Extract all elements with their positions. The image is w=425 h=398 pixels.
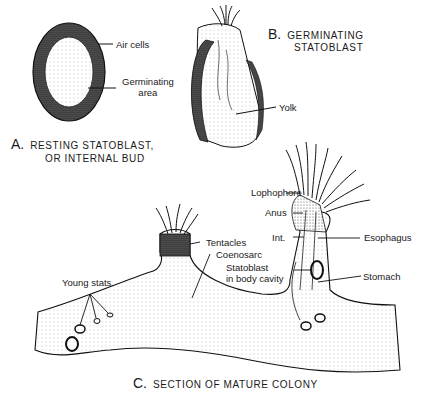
label-air-cells: Air cells [116,39,149,50]
label-yolk: Yolk [279,102,297,113]
germinating-statoblast [191,5,276,147]
panel-c-letter: C. [133,375,147,391]
label-young-stats: Young stats. [62,277,114,288]
label-esophagus: Esophagus [364,232,412,243]
diagram-drawing [0,0,425,398]
panel-a-caption-line1: RESTING STATOBLAST, [30,140,154,151]
label-stomach: Stomach [363,271,401,282]
label-germinating-line1: Germinating [122,76,174,87]
label-statoblast-line1: Statoblast [226,262,284,273]
label-germinating-area: Germinating area [122,76,174,98]
panel-c-caption: SECTION OF MATURE COLONY [153,379,318,390]
label-tentacles: Tentacles [206,237,246,248]
label-coenosarc: Coenosarc [216,249,262,260]
caption-panel-b: B.GERMINATING [268,26,364,42]
panel-b-letter: B. [268,26,281,42]
label-germinating-line2: area [122,87,174,98]
label-anus: Anus [265,207,287,218]
panel-b-caption-line1: GERMINATING [287,30,363,41]
caption-panel-a: A.RESTING STATOBLAST, [11,136,154,152]
label-statoblast-in-body-cavity: Statoblast in body cavity [226,262,284,284]
label-statoblast-line2: in body cavity [226,273,284,284]
label-lophophore: Lophophore [251,187,302,198]
panel-a-letter: A. [11,136,24,152]
resting-statoblast [33,23,116,121]
panel-b-caption-line2: STATOBLAST [294,42,363,53]
caption-panel-c: C.SECTION OF MATURE COLONY [133,375,318,391]
label-int: Int. [272,232,285,243]
panel-a-caption-line2: OR INTERNAL BUD [45,153,145,164]
